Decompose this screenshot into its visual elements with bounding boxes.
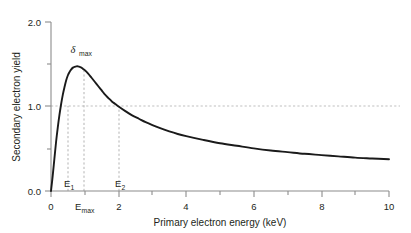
x-tick-label-0: 0 bbox=[48, 201, 53, 212]
e1-subscript: 1 bbox=[71, 184, 75, 191]
e2-subscript: 2 bbox=[122, 184, 126, 191]
x-axis-title: Primary electron energy (keV) bbox=[154, 217, 287, 228]
x-tick-label-8: 8 bbox=[319, 201, 324, 212]
emax-label: E bbox=[75, 201, 81, 212]
delta-max-subscript: max bbox=[79, 50, 92, 57]
chart-background bbox=[0, 0, 411, 233]
y-tick-label-0-0: 0.0 bbox=[28, 186, 41, 197]
y-tick-label-2-0: 2.0 bbox=[28, 17, 41, 28]
y-tick-label-1-0: 1.0 bbox=[28, 101, 41, 112]
e1-label: E bbox=[64, 178, 70, 189]
x-tick-label-4: 4 bbox=[183, 201, 188, 212]
x-tick-label-6: 6 bbox=[251, 201, 256, 212]
chart-canvas: 2.0 1.0 0.0 0 2 4 6 8 10 δ max E 1 E max… bbox=[0, 0, 411, 233]
secondary-electron-yield-chart: 2.0 1.0 0.0 0 2 4 6 8 10 δ max E 1 E max… bbox=[0, 0, 411, 233]
x-tick-label-2: 2 bbox=[116, 201, 121, 212]
x-tick-label-10: 10 bbox=[384, 201, 395, 212]
y-axis-title: Secondary electron yield bbox=[11, 52, 22, 162]
e2-label: E bbox=[115, 178, 121, 189]
emax-subscript: max bbox=[82, 207, 95, 214]
